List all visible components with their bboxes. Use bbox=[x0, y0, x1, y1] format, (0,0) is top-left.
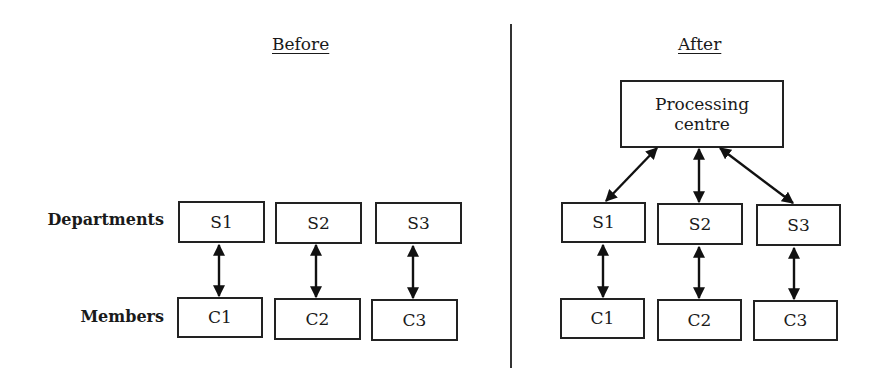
arrow-centre-s1 bbox=[606, 148, 657, 201]
arrow-centre-s3 bbox=[720, 148, 793, 203]
connector-arrows bbox=[0, 0, 880, 381]
